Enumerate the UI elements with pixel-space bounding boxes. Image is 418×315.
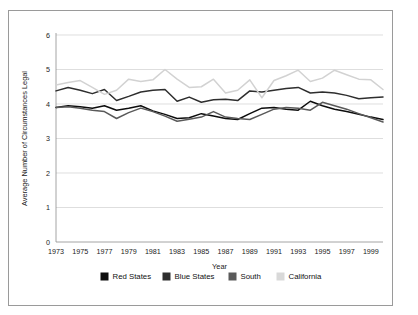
y-tick-label: 3 [46, 134, 50, 143]
x-tick-label: 1985 [193, 247, 209, 256]
x-tick-label: 1973 [48, 247, 64, 256]
legend-swatch-blue-states [163, 273, 171, 281]
chart-figure-frame: 0123456 19731975197719791981198319851987… [8, 10, 393, 306]
x-tick-labels: 1973197519771979198119831985198719891991… [48, 247, 379, 256]
y-tick-label: 0 [46, 238, 50, 247]
x-tick-label: 1997 [339, 247, 355, 256]
y-axis-title: Average Number of Circumstances Legal [20, 71, 29, 206]
x-tick-label: 1979 [121, 247, 137, 256]
legend-label-blue-states: Blue States [175, 272, 215, 281]
x-tick-label: 1993 [290, 247, 306, 256]
x-tick-label: 1999 [363, 247, 379, 256]
legend-label-california: California [289, 272, 323, 281]
line-chart: 0123456 19731975197719791981198319851987… [9, 11, 392, 305]
x-tick-label: 1975 [72, 247, 88, 256]
x-tick-label: 1991 [266, 247, 282, 256]
x-tick-label: 1989 [242, 247, 258, 256]
x-tick-label: 1987 [218, 247, 234, 256]
legend-swatch-california [277, 273, 285, 281]
series-group [56, 70, 383, 122]
y-tick-labels: 0123456 [46, 31, 50, 247]
legend-swatch-south [229, 273, 237, 281]
x-tick-label: 1983 [169, 247, 185, 256]
x-tick-label: 1981 [145, 247, 161, 256]
y-tick-label: 6 [46, 31, 50, 40]
legend-label-red-states: Red States [113, 272, 152, 281]
gridlines-group [56, 35, 383, 208]
x-tick-label: 1977 [96, 247, 112, 256]
chart-legend: Red StatesBlue StatesSouthCalifornia [101, 272, 323, 281]
y-tick-label: 4 [46, 100, 50, 109]
legend-swatch-red-states [101, 273, 109, 281]
y-tick-label: 1 [46, 203, 50, 212]
y-tick-label: 5 [46, 65, 50, 74]
legend-label-south: South [241, 272, 261, 281]
x-axis-title: Year [212, 262, 227, 271]
y-tick-label: 2 [46, 169, 50, 178]
x-tick-label: 1995 [314, 247, 330, 256]
